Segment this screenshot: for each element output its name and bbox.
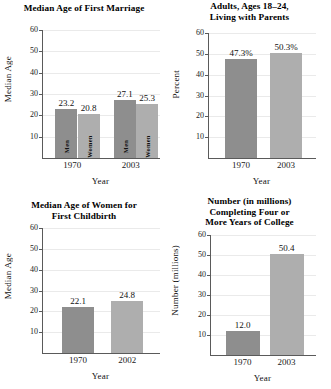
y-axis-tick [39,228,43,229]
y-axis-tick [207,275,211,276]
bar: 25.3Women [136,104,158,158]
bar: 12.0 [226,331,260,355]
x-axis-category-label: 1970 [43,161,102,170]
y-axis-tick-label: 60 [30,26,38,34]
y-axis-tick-label: 50 [30,245,38,253]
y-axis-title: Median Age [3,253,13,299]
gridline [43,51,160,52]
plot-area: 10203040506023.2Men20.8Women27.1Men25.3W… [42,30,160,159]
chart-title-line: More Years of College [168,217,331,228]
y-axis-tick-label: 40 [30,266,38,274]
chart-panel-college-completion: Number (in millions)Completing Four orMo… [168,195,331,389]
y-axis-tick [39,115,43,116]
y-axis-tick [39,137,43,138]
y-axis-tick-label: 20 [196,112,204,120]
bar-value-label: 27.1 [117,90,133,99]
y-axis-tick [207,315,211,316]
y-axis-tick-label: 10 [30,328,38,336]
y-axis-tick [205,54,209,55]
chart-title-line: Number (in millions) [168,196,331,207]
chart-title-line: Completing Four or [168,207,331,218]
gridline [43,228,160,229]
y-axis-title: Median Age [3,56,13,102]
x-axis-category-label: 2003 [102,161,161,170]
y-axis-tick [207,235,211,236]
y-axis-tick-label: 60 [30,224,38,232]
x-axis-category-label: 1970 [58,356,98,365]
y-axis-tick-label: 60 [196,29,204,37]
plot-area: 10203040506047.3%50.3%19702003 [208,33,316,159]
bar-value-label: 23.2 [59,99,75,108]
y-axis-tick [39,51,43,52]
y-axis-tick-label: 30 [30,287,38,295]
figure-four-panel-bar-charts: Median Age of First Marriage102030405060… [0,0,331,389]
y-axis-tick-label: 20 [30,111,38,119]
chart-title-line: Adults, Ages 18–24, [168,1,331,12]
plot-area: 10203040506022.124.819702002 [42,228,160,354]
y-axis-tick-label: 50 [198,251,206,259]
x-axis-title: Year [208,176,315,186]
y-axis-title: Number (millions) [170,245,180,316]
y-axis-tick-label: 20 [198,311,206,319]
x-axis-category-label: 2003 [267,358,307,367]
bar-series-label: Women [144,135,151,157]
y-axis-tick-label: 40 [30,69,38,77]
chart-panel-median-age-first-childbirth: Median Age of Women forFirst Childbirth1… [0,195,168,389]
gridline [43,291,160,292]
gridline [43,73,160,74]
chart-title-line: First Childbirth [0,211,168,222]
bar-value-label: 25.3 [139,94,155,103]
y-axis-tick [205,75,209,76]
y-axis-tick-label: 30 [196,92,204,100]
bar-series-label: Men [63,140,70,153]
x-axis-category-label: 2003 [266,161,306,170]
y-axis-tick [205,96,209,97]
x-axis-category-label: 1970 [221,161,261,170]
x-axis-title: Year [42,371,159,381]
y-axis-tick-label: 20 [30,307,38,315]
y-axis-tick-label: 50 [196,50,204,58]
x-axis-category-label: 2002 [107,356,147,365]
chart-title: Median Age of Women forFirst Childbirth [0,200,168,221]
bar-series-label: Men [121,140,128,153]
bar: 47.3% [225,59,257,158]
gridline [43,270,160,271]
y-axis-tick [205,33,209,34]
y-axis-tick-label: 10 [198,331,206,339]
y-axis-tick-label: 50 [30,47,38,55]
y-axis-title: Percent [171,70,181,98]
bar-value-label: 20.8 [81,104,97,113]
chart-title: Median Age of First Marriage [0,3,168,14]
bar: 27.1Men [114,100,136,158]
y-axis-tick [39,311,43,312]
y-axis-tick [207,335,211,336]
gridline [43,30,160,31]
bar: 23.2Men [55,109,77,158]
chart-title-line: Median Age of First Marriage [0,3,168,14]
bar: 24.8 [111,301,143,353]
bar-value-label: 47.3% [229,49,252,58]
y-axis-tick-label: 40 [196,71,204,79]
bar: 20.8Women [78,114,100,158]
gridline [43,249,160,250]
bar-value-label: 24.8 [119,291,135,300]
y-axis-tick [39,270,43,271]
y-axis-tick [205,116,209,117]
bar-value-label: 22.1 [70,297,86,306]
x-axis-title: Year [42,176,159,186]
y-axis-tick-label: 60 [198,231,206,239]
chart-panel-adults-living-with-parents: Adults, Ages 18–24,Living with Parents10… [168,0,331,195]
y-axis-tick-label: 40 [198,271,206,279]
gridline [209,33,316,34]
chart-panel-median-age-first-marriage: Median Age of First Marriage102030405060… [0,0,168,195]
y-axis-tick [39,73,43,74]
y-axis-tick [207,255,211,256]
gridline [211,235,316,236]
chart-title-line: Median Age of Women for [0,200,168,211]
y-axis-tick [39,30,43,31]
y-axis-tick [205,137,209,138]
y-axis-tick [39,94,43,95]
chart-title: Number (in millions)Completing Four orMo… [168,196,331,228]
y-axis-tick [39,332,43,333]
x-axis-title: Year [210,373,315,383]
